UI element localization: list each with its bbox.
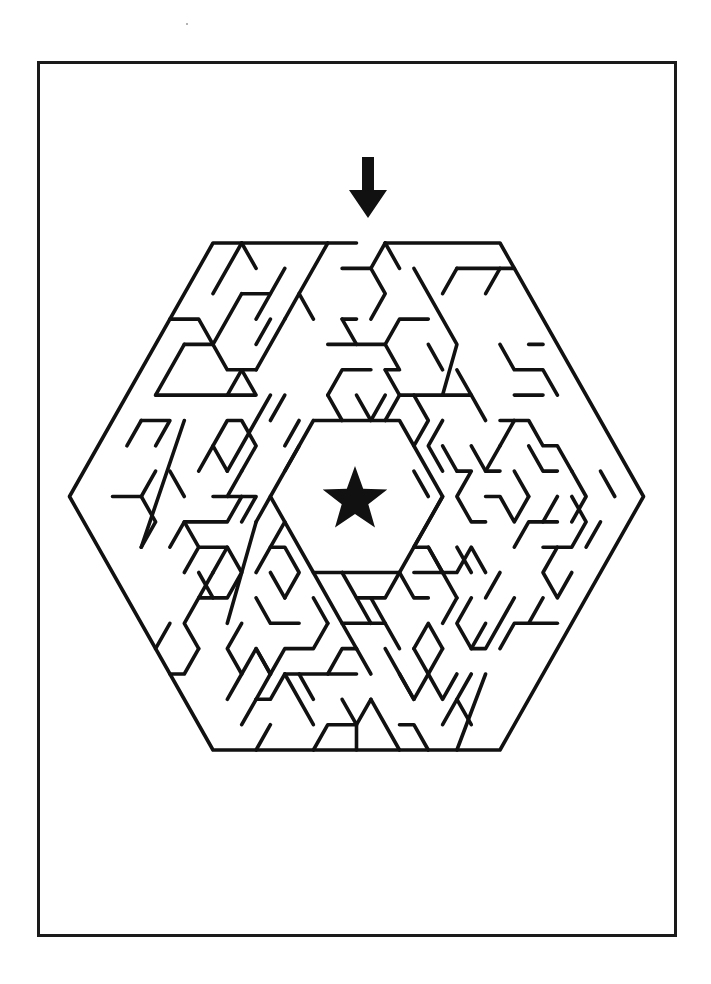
maze-wall [342, 268, 385, 319]
maze-wall [342, 573, 399, 598]
maze-wall [313, 598, 327, 623]
maze-wall [514, 471, 528, 496]
maze-wall [270, 522, 284, 547]
maze-wall [514, 522, 543, 547]
maze-wall [256, 674, 285, 699]
maze-wall [471, 446, 500, 471]
maze-wall [486, 497, 529, 522]
maze-wall [457, 471, 486, 522]
maze-wall [227, 370, 241, 395]
maze-wall [256, 649, 270, 674]
maze-wall [256, 497, 270, 522]
maze-wall [242, 243, 256, 268]
maze-wall [256, 725, 270, 750]
maze-wall [471, 395, 485, 420]
maze-wall [400, 573, 429, 598]
maze-wall [256, 674, 270, 699]
maze-wall [428, 344, 442, 369]
maze-wall [443, 446, 457, 471]
maze-wall [500, 421, 514, 446]
maze-wall [313, 573, 399, 649]
maze-wall [371, 598, 385, 623]
maze-wall [385, 395, 399, 420]
maze-wall [443, 699, 457, 724]
maze-wall [199, 421, 256, 472]
maze-wall [285, 294, 299, 319]
maze-wall [270, 573, 284, 598]
maze-wall [385, 243, 399, 268]
hexagon-maze [0, 0, 711, 984]
maze-wall [486, 268, 500, 293]
maze-wall [414, 547, 486, 572]
maze-wall [256, 547, 299, 598]
maze-wall [213, 471, 242, 496]
maze-wall [414, 471, 428, 496]
maze-wall [328, 395, 342, 420]
maze-wall [414, 623, 443, 648]
maze-wall [357, 395, 386, 420]
maze-wall [400, 725, 429, 750]
maze-wall [270, 395, 284, 420]
maze-wall [428, 649, 442, 674]
maze-wall [313, 725, 356, 750]
maze-wall [328, 370, 371, 395]
maze-wall [443, 598, 457, 623]
maze-wall [428, 547, 442, 572]
maze-wall [543, 497, 557, 522]
maze-wall [242, 699, 256, 724]
goal-star-icon [323, 466, 388, 528]
maze-wall [572, 471, 586, 522]
maze-wall [213, 446, 227, 471]
maze-wall [385, 344, 399, 369]
maze-wall [385, 370, 471, 395]
maze-wall [357, 598, 371, 623]
maze-wall [414, 268, 457, 395]
maze-wall [156, 344, 185, 395]
maze-wall [342, 699, 371, 724]
start-arrow-icon [349, 157, 387, 218]
maze-wall [529, 446, 558, 471]
maze-wall [213, 547, 227, 572]
maze-wall [227, 623, 241, 699]
maze-wall [601, 471, 615, 496]
maze-wall [141, 421, 170, 446]
maze-wall [371, 243, 385, 268]
maze-wall [127, 421, 141, 446]
maze-wall [256, 598, 299, 623]
maze-wall [184, 573, 213, 649]
maze-wall [486, 446, 500, 471]
maze-wall [328, 649, 357, 674]
maze-wall [543, 547, 572, 598]
maze-wall [500, 344, 557, 395]
maze-wall [227, 497, 256, 522]
maze-wall [357, 649, 371, 674]
maze-wall [256, 319, 270, 344]
maze-wall [256, 319, 285, 370]
maze-wall [113, 471, 156, 496]
maze-wall [371, 699, 400, 750]
maze-wall [299, 243, 328, 319]
maze-wall [299, 674, 313, 699]
maze-wall [428, 421, 442, 472]
maze-wall [156, 623, 170, 648]
maze-wall [342, 319, 356, 344]
maze-wall [170, 497, 242, 548]
maze-wall [471, 623, 485, 648]
maze-wall [400, 674, 414, 699]
maze-wall [285, 674, 314, 725]
maze-wall [285, 421, 299, 446]
maze-wall [428, 674, 457, 699]
maze-wall [184, 522, 198, 573]
maze-wall [170, 649, 199, 674]
maze-wall [586, 522, 600, 547]
maze-wall [213, 243, 242, 294]
maze-wall [414, 395, 428, 446]
maze-wall [457, 674, 486, 750]
maze-wall [342, 623, 356, 648]
maze-wall [443, 268, 457, 293]
maze-wall [486, 573, 500, 598]
maze-wall [385, 649, 428, 700]
maze-wall [170, 471, 184, 496]
maze-wall [227, 522, 256, 623]
